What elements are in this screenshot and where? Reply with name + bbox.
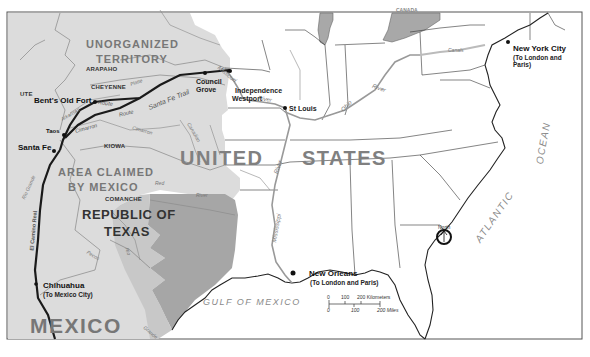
- label-states: STATES: [302, 148, 387, 168]
- city-new-york: New York City: [513, 45, 566, 53]
- scale-km-200: 200 Kilometers: [357, 295, 390, 300]
- scale-mi-100: 100: [351, 308, 359, 313]
- label-area-claimed: AREA CLAIMED: [58, 167, 154, 178]
- tribe-comanche: COMANCHE: [105, 196, 142, 202]
- city-taos: Taos: [46, 128, 60, 134]
- tribe-kiowa: KIOWA: [104, 143, 125, 149]
- city-st-louis: St Louis: [289, 105, 317, 113]
- marker-bents-old-fort: [93, 100, 97, 104]
- city-chihuahua: Chihuahua: [43, 282, 84, 290]
- marker-new-orleans: [291, 271, 296, 276]
- scale-mi-0: 0: [327, 308, 330, 313]
- marker-chihuahua: [34, 282, 38, 286]
- scale-km-0: 0: [327, 295, 330, 300]
- city-independence: Independence: [235, 87, 282, 95]
- city-chihuahua-note: (To Mexico City): [43, 291, 93, 298]
- river-red-river: River: [196, 193, 208, 198]
- marker-st-louis: [283, 106, 287, 110]
- label-by-mexico: BY MEXICO: [68, 182, 139, 193]
- scale-mi-200: 200 Miles: [377, 308, 398, 313]
- city-new-orleans-note: (To London and Paris): [310, 279, 379, 286]
- tribe-cheyenne: CHEYENNE: [91, 84, 126, 90]
- label-gulf-of-mexico: GULF OF MEXICO: [203, 298, 301, 307]
- north-label: North: [438, 225, 450, 230]
- label-territory: TERRITORY: [96, 54, 168, 65]
- scale-km-100: 100: [341, 295, 349, 300]
- marker-taos: [62, 133, 66, 137]
- label-republic-of: REPUBLIC OF: [82, 208, 176, 221]
- city-council: Council: [196, 78, 222, 86]
- label-unorganized: UNORGANIZED: [86, 39, 179, 50]
- river-canals: Canals: [448, 48, 464, 53]
- label-texas: TEXAS: [104, 225, 150, 238]
- city-new-york-note-2: Paris): [513, 61, 531, 68]
- city-grove: Grove: [196, 86, 216, 94]
- marker-council-grove: [203, 71, 207, 75]
- label-canada: CANADA: [396, 8, 418, 13]
- marker-santa-fe: [52, 149, 56, 153]
- river-red: Red: [155, 181, 164, 186]
- label-united: UNITED: [180, 148, 263, 168]
- city-new-orleans: New Orleans: [309, 270, 357, 278]
- city-santa-fe: Santa Fe: [18, 144, 51, 152]
- label-mexico: MEXICO: [30, 315, 122, 336]
- tribe-arapaho: ARAPAHO: [86, 66, 117, 72]
- city-bents-old-fort: Bent's Old Fort: [34, 97, 91, 105]
- marker-new-york: [506, 40, 510, 44]
- tribe-ute: UTE: [20, 91, 33, 97]
